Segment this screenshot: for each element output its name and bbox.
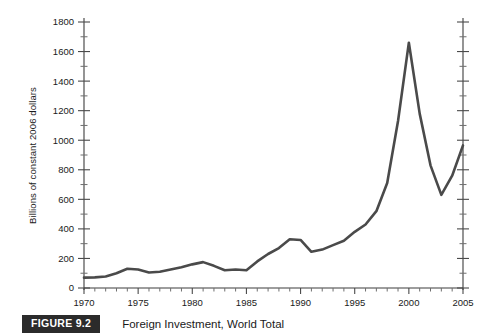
x-tick-label: 1990 xyxy=(290,297,311,306)
x-tick-label: 1985 xyxy=(236,297,257,306)
x-axis-ticks xyxy=(84,288,463,294)
x-tick-label: 2000 xyxy=(398,297,419,306)
y-tick-label: 1000 xyxy=(53,135,74,146)
x-tick-label: 2005 xyxy=(452,297,473,306)
y-tick-label: 1200 xyxy=(53,105,74,116)
y-axis-title: Billions of constant 2006 dollars xyxy=(27,61,38,251)
y-tick-label: 800 xyxy=(58,164,74,175)
data-series-line xyxy=(84,43,463,278)
x-tick-label: 1970 xyxy=(73,297,94,306)
figure-number-badge: FIGURE 9.2 xyxy=(22,315,100,333)
x-tick-label: 1980 xyxy=(182,297,203,306)
y-tick-label: 200 xyxy=(58,253,74,264)
figure-caption-bar: FIGURE 9.2 Foreign Investment, World Tot… xyxy=(0,312,493,336)
figure-container: 180016001400120010008006004002000 197019… xyxy=(0,0,493,336)
figure-caption-text: Foreign Investment, World Total xyxy=(122,318,284,330)
chart-plot-area: 180016001400120010008006004002000 197019… xyxy=(0,0,493,306)
y-axis-ticks xyxy=(78,22,469,288)
x-axis-tick-labels: 19701975198019851990199520002005 xyxy=(73,297,473,306)
y-tick-label: 1800 xyxy=(53,16,74,27)
y-tick-label: 0 xyxy=(69,282,74,293)
y-tick-label: 1600 xyxy=(53,46,74,57)
y-axis-tick-labels: 180016001400120010008006004002000 xyxy=(53,16,74,293)
y-tick-label: 400 xyxy=(58,223,74,234)
y-tick-label: 1400 xyxy=(53,76,74,87)
y-tick-label: 600 xyxy=(58,194,74,205)
x-tick-label: 1975 xyxy=(128,297,149,306)
line-chart-svg: 180016001400120010008006004002000 197019… xyxy=(0,0,493,306)
x-tick-label: 1995 xyxy=(344,297,365,306)
